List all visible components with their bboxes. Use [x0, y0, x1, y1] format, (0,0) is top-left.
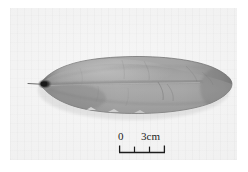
scale-bar-labels: 0 3cm [114, 131, 170, 144]
figure-root: 0 3cm [0, 0, 248, 172]
scale-bar-end-label: 3cm [141, 131, 160, 142]
scale-bar-start-label: 0 [118, 131, 124, 142]
scale-bar-ruler [117, 144, 167, 155]
specimen-image [26, 46, 236, 122]
specimen-outline-svg [26, 46, 236, 122]
specimen-photograph: 0 3cm [10, 8, 237, 160]
specimen-tip-core [41, 82, 48, 87]
scale-bar: 0 3cm [114, 131, 170, 157]
